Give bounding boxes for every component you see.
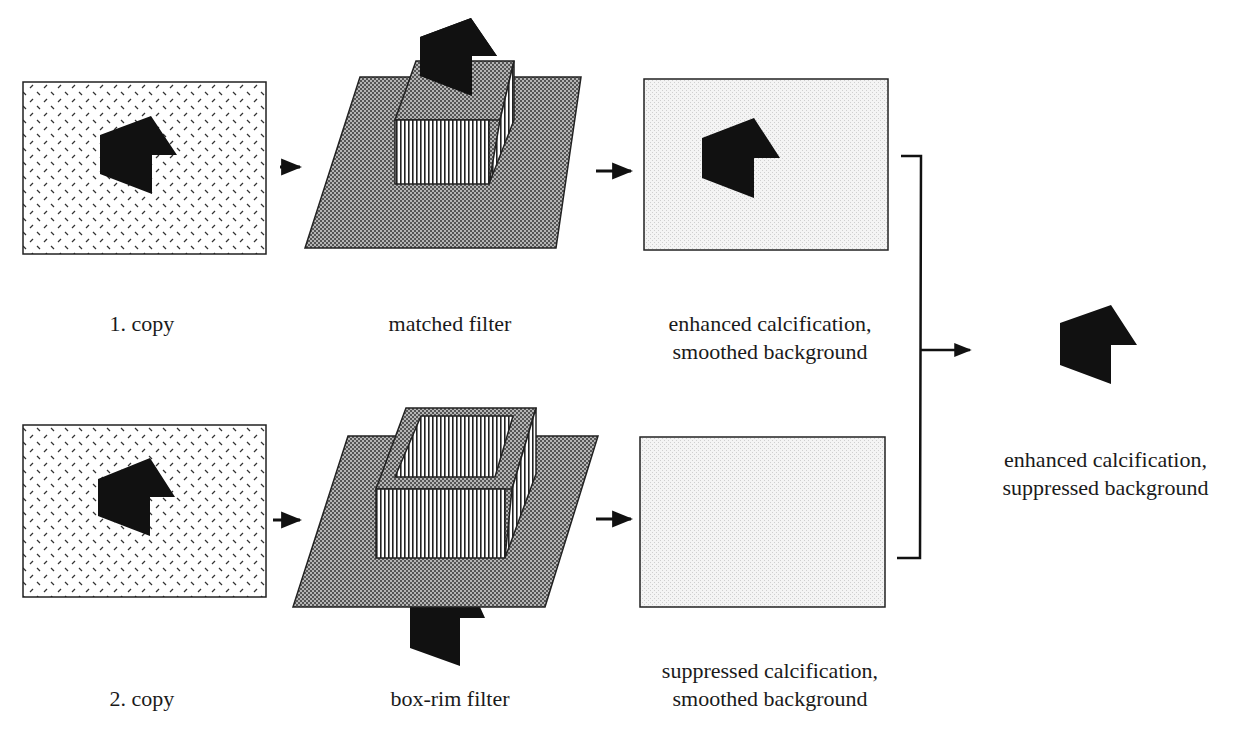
calcification-icon: [410, 607, 485, 666]
row1-input-image: [23, 82, 266, 254]
result-calcification: [1060, 305, 1137, 384]
row1-output-image: [644, 79, 888, 250]
result-label: enhanced calcification, suppressed backg…: [968, 446, 1243, 502]
row2-output-label-line2: smoothed background: [630, 685, 910, 713]
row1-output-label-line2: smoothed background: [630, 338, 910, 366]
row1-output-label-line1: enhanced calcification,: [630, 310, 910, 338]
row2-output-label: suppressed calcification, smoothed backg…: [630, 657, 910, 713]
result-label-line2: suppressed background: [968, 474, 1243, 502]
row2-output-label-line1: suppressed calcification,: [630, 657, 910, 685]
row1-filter-label: matched filter: [375, 310, 525, 338]
diagram-canvas: [0, 0, 1243, 729]
row1-matched-filter: [305, 18, 581, 248]
row2-filter-label: box-rim filter: [375, 685, 525, 713]
row2-output-image: [640, 437, 885, 607]
row1-output-label: enhanced calcification, smoothed backgro…: [630, 310, 910, 366]
row2-box-rim-filter: [293, 408, 598, 666]
row2-input-label: 2. copy: [82, 685, 202, 713]
row1-input-label: 1. copy: [82, 310, 202, 338]
calcification-icon: [1060, 305, 1137, 384]
result-label-line1: enhanced calcification,: [968, 446, 1243, 474]
row2-input-image: [23, 425, 266, 597]
